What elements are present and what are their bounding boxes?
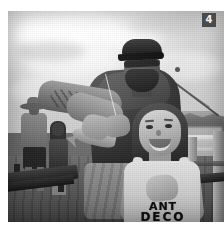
fishing-rod-tip: [175, 67, 180, 72]
cloud-shadow: [128, 17, 208, 35]
cloud-shadow: [16, 41, 86, 61]
photo-content: Centro: [8, 11, 224, 222]
background-man-shorts: [23, 147, 46, 169]
railing-rail: [194, 161, 224, 166]
girl-eye: [165, 124, 172, 128]
image-number-badge: 4: [202, 13, 216, 27]
girl-nose: [156, 130, 161, 136]
girl-eye: [146, 125, 153, 129]
shirt-text-line-2: DECO: [134, 212, 192, 222]
photo-page: Centro: [0, 0, 224, 227]
shirt-graphic-text: ANT DECO: [134, 201, 192, 222]
background-man-torso: [21, 113, 47, 149]
girl-hands: [145, 173, 180, 202]
background-child-head: [52, 123, 64, 136]
photograph: Centro: [8, 11, 224, 222]
